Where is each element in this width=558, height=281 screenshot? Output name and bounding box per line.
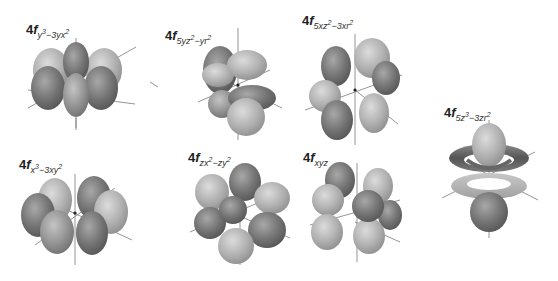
lobe (352, 190, 384, 222)
lobe (312, 184, 344, 216)
lobe (311, 214, 343, 250)
lobe (353, 218, 385, 254)
orbital-diagram-xyz (0, 0, 558, 281)
